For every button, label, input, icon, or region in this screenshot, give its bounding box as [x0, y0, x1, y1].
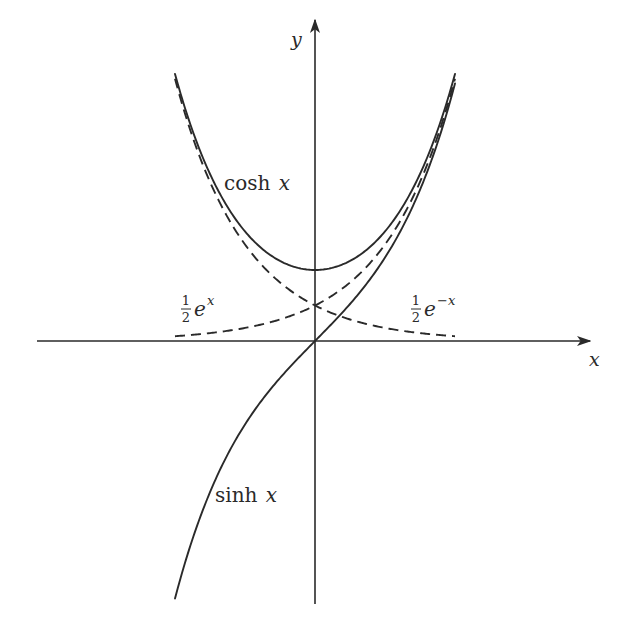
svg-text:1: 1: [412, 293, 420, 308]
svg-text:e: e: [424, 297, 436, 321]
svg-text:1: 1: [182, 293, 190, 308]
y-axis-label: y: [290, 28, 302, 50]
sinh-label: sinh x: [215, 483, 277, 507]
half-exp-x-label: 1 2 e x: [181, 293, 215, 325]
svg-text:2: 2: [182, 310, 190, 325]
half-exp-neg-x-label: 1 2 e −x: [411, 293, 456, 325]
svg-text:2: 2: [412, 310, 420, 325]
hyperbolic-functions-plot: x y cosh x sinh x 1 2 e x 1 2 e −x: [0, 0, 634, 626]
x-axis-label: x: [589, 348, 600, 370]
cosh-label: cosh x: [224, 171, 290, 195]
svg-text:e: e: [194, 297, 206, 321]
svg-text:x: x: [207, 293, 215, 308]
svg-text:−x: −x: [437, 293, 456, 308]
